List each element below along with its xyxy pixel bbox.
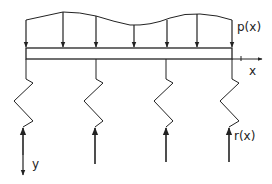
load-label: p(x) [237, 20, 261, 34]
beam [26, 48, 232, 59]
beam-foundation-diagram: p(x) r(x) x y [0, 0, 272, 184]
reaction-label: r(x) [234, 129, 255, 143]
spring [14, 59, 33, 127]
x-axis-label: x [249, 64, 256, 78]
load-distribution-curve [26, 12, 232, 25]
spring [220, 59, 239, 127]
spring [84, 59, 103, 127]
springs [14, 59, 239, 127]
reaction-arrows [23, 128, 229, 164]
load-arrows [26, 12, 232, 47]
y-axis-label: y [32, 157, 39, 171]
spring [154, 59, 173, 127]
